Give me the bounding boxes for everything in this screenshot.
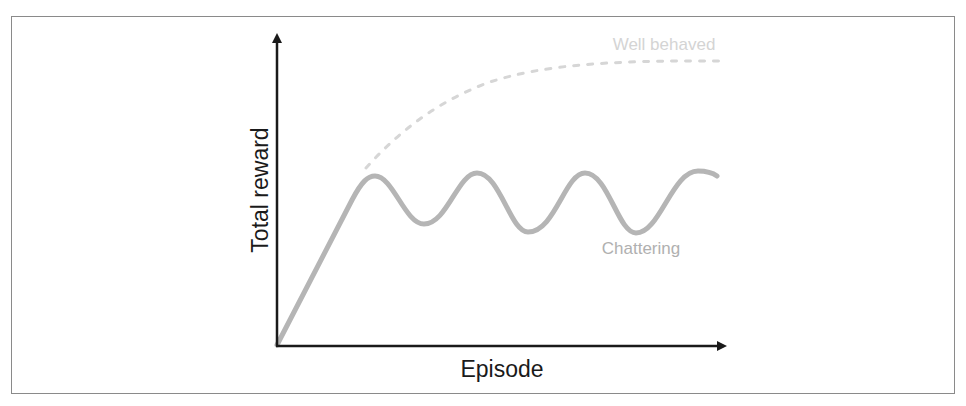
well-behaved-label: Well behaved xyxy=(613,35,716,54)
chattering-curve xyxy=(277,171,717,345)
reward-diagram: Well behaved Chattering Episode Total re… xyxy=(0,0,966,406)
chattering-label: Chattering xyxy=(602,239,680,258)
x-axis-label: Episode xyxy=(460,356,543,382)
well-behaved-curve xyxy=(366,61,725,168)
y-axis-label: Total reward xyxy=(247,127,273,252)
